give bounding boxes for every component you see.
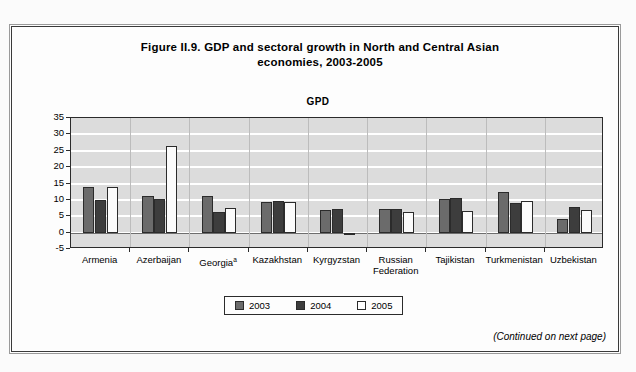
gridline xyxy=(71,183,602,185)
bar-2004-6[interactable] xyxy=(450,198,461,233)
bar-2004-3[interactable] xyxy=(273,201,284,232)
legend-item-2003[interactable]: 2003 xyxy=(235,300,270,311)
bar-2003-4[interactable] xyxy=(320,210,331,233)
gridline xyxy=(71,150,602,152)
figure-title-line2: economies, 2003-2005 xyxy=(60,55,580,70)
x-axis-label-3: Kazakhstan xyxy=(248,254,307,265)
x-axis-label-0: Armenia xyxy=(70,254,129,265)
bar-2005-1[interactable] xyxy=(166,146,177,232)
bar-2005-2[interactable] xyxy=(225,208,236,233)
bar-2003-8[interactable] xyxy=(557,219,568,233)
x-axis-tick-mark xyxy=(248,248,249,252)
bar-2003-6[interactable] xyxy=(439,199,450,232)
legend-item-2005[interactable]: 2005 xyxy=(357,300,392,311)
chart-legend: 2003 2004 2005 xyxy=(224,296,403,315)
footnote-marker: a xyxy=(233,256,237,263)
x-axis-label-6: Tajikistan xyxy=(425,254,484,265)
category-separator xyxy=(545,118,546,247)
y-axis-tick-label: 20 xyxy=(24,161,64,170)
bar-2005-6[interactable] xyxy=(462,211,473,233)
legend-label-2004: 2004 xyxy=(310,300,331,311)
x-axis-tick-mark xyxy=(307,248,308,252)
continued-note: (Continued on next page) xyxy=(493,331,606,342)
y-axis-tick-label: 35 xyxy=(24,112,64,121)
zero-baseline xyxy=(71,233,602,234)
y-axis-tick-label: 30 xyxy=(24,128,64,137)
y-axis-tick-label: 15 xyxy=(24,178,64,187)
x-axis-tick-mark xyxy=(544,248,545,252)
bar-2004-2[interactable] xyxy=(213,212,224,232)
bar-2004-4[interactable] xyxy=(332,209,343,232)
x-axis-label-8: Uzbekistan xyxy=(544,254,603,265)
y-axis-tick-label: 5 xyxy=(24,210,64,219)
bar-2003-1[interactable] xyxy=(142,196,153,233)
y-axis-tick-label: -5 xyxy=(24,243,64,252)
category-separator xyxy=(426,118,427,247)
plot-wrapper xyxy=(70,117,603,248)
x-axis-label-2: Georgiaa xyxy=(188,254,247,268)
y-axis-tick-mark xyxy=(66,183,70,184)
figure-title-line1: Figure II.9. GDP and sectoral growth in … xyxy=(141,41,499,53)
y-axis-tick-mark xyxy=(66,215,70,216)
category-separator xyxy=(189,118,190,247)
y-axis-tick-mark xyxy=(66,166,70,167)
bar-2005-0[interactable] xyxy=(107,187,118,233)
legend-swatch-2003-icon xyxy=(235,301,244,310)
y-axis-tick-label: 10 xyxy=(24,194,64,203)
gridline xyxy=(71,166,602,168)
bar-2003-3[interactable] xyxy=(261,202,272,232)
bar-2005-4[interactable] xyxy=(344,233,355,235)
x-axis-label-7: Turkmenistan xyxy=(485,254,544,265)
bar-2003-0[interactable] xyxy=(83,187,94,233)
y-axis-tick-label: 0 xyxy=(24,227,64,236)
bar-2003-5[interactable] xyxy=(379,209,390,233)
bar-2005-5[interactable] xyxy=(403,212,414,233)
bar-2004-5[interactable] xyxy=(391,209,402,233)
plot-area xyxy=(70,117,603,248)
category-separator xyxy=(249,118,250,247)
panel-title: GPD xyxy=(0,96,636,107)
x-axis-tick-mark xyxy=(366,248,367,252)
x-axis-label-1: Azerbaijan xyxy=(129,254,188,265)
y-axis-tick-label: 25 xyxy=(24,145,64,154)
bar-2005-3[interactable] xyxy=(284,202,295,233)
bar-2003-2[interactable] xyxy=(202,196,213,232)
y-axis-tick-mark xyxy=(66,117,70,118)
y-axis-tick-mark xyxy=(66,199,70,200)
x-axis-label-5: Russian Federation xyxy=(366,254,425,276)
x-axis-label-4: Kyrgyzstan xyxy=(307,254,366,265)
x-axis-tick-mark xyxy=(188,248,189,252)
bar-2004-1[interactable] xyxy=(154,199,165,232)
category-separator xyxy=(130,118,131,247)
legend-swatch-2004-icon xyxy=(296,301,305,310)
figure-panel: Figure II.9. GDP and sectoral growth in … xyxy=(0,0,636,372)
category-separator xyxy=(308,118,309,247)
bar-2003-7[interactable] xyxy=(498,192,509,233)
category-separator xyxy=(486,118,487,247)
y-axis-tick-mark xyxy=(66,150,70,151)
y-axis-tick-mark xyxy=(66,232,70,233)
category-separator xyxy=(367,118,368,247)
x-axis-tick-mark xyxy=(485,248,486,252)
legend-item-2004[interactable]: 2004 xyxy=(296,300,331,311)
x-axis-tick-mark xyxy=(129,248,130,252)
bar-2004-7[interactable] xyxy=(510,203,521,232)
x-axis-tick-mark xyxy=(425,248,426,252)
bar-2004-8[interactable] xyxy=(569,207,580,232)
legend-label-2005: 2005 xyxy=(371,300,392,311)
bar-2004-0[interactable] xyxy=(95,200,106,233)
bar-2005-7[interactable] xyxy=(521,201,532,232)
y-axis-tick-mark xyxy=(66,248,70,249)
bar-2005-8[interactable] xyxy=(581,210,592,233)
figure-title: Figure II.9. GDP and sectoral growth in … xyxy=(60,40,580,70)
y-axis-tick-mark xyxy=(66,133,70,134)
legend-label-2003: 2003 xyxy=(249,300,270,311)
gridline xyxy=(71,133,602,135)
legend-swatch-2005-icon xyxy=(357,301,366,310)
